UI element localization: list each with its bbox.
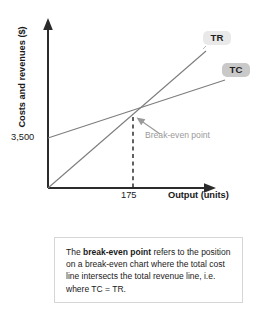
tr-leader-line [203, 46, 206, 49]
total-revenue-line [48, 51, 206, 188]
y-axis-tick-label-3500: 3,500 [11, 132, 34, 142]
definition-text-before: The [66, 247, 83, 257]
y-axis [43, 18, 53, 188]
break-even-chart: Costs and revenues ($) Output (units) 3,… [0, 0, 266, 220]
definition-bold-term: break-even point [83, 247, 151, 257]
series-label-tc: TC [222, 63, 250, 77]
definition-callout-box: The break-even point refers to the posit… [54, 237, 243, 303]
y-axis-title: Costs and revenues ($) [17, 25, 27, 129]
series-label-tr: TR [203, 31, 231, 45]
x-axis-tick-label-175: 175 [121, 190, 137, 200]
break-even-point-annotation: Break-even point [145, 130, 210, 140]
x-axis-title: Output (units) [168, 190, 229, 200]
definition-text: The break-even point refers to the posit… [66, 246, 232, 295]
